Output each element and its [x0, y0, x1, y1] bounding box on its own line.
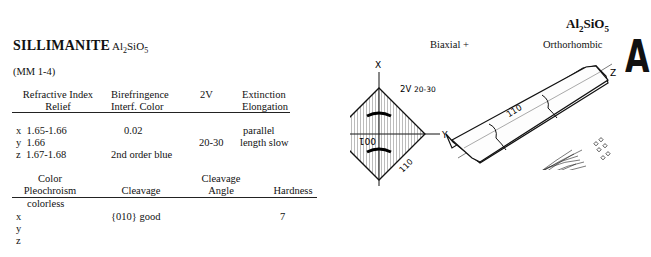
- ri-value: 1.66: [27, 137, 45, 148]
- mineral-formula: Al2SiO5: [112, 40, 148, 55]
- x-axis-label: X: [375, 60, 381, 70]
- crystal-prism-diagram: Z 110: [440, 50, 620, 170]
- header-line: Refractive Index: [13, 89, 103, 101]
- header-hardness: Hardness: [270, 185, 316, 197]
- mineral-reference: (MM 1-4): [13, 66, 55, 78]
- pleochroism-y: y: [16, 223, 21, 235]
- pleochroism-x: x: [16, 211, 21, 223]
- header-formula: Al2SiO5: [566, 16, 609, 34]
- ri-row-y: y 1.66: [16, 137, 45, 149]
- formula-element-sio: SiO: [127, 40, 144, 52]
- header-line: Cleavage: [116, 185, 166, 197]
- formula-element-sio: SiO: [584, 16, 605, 31]
- header-cleavage: Cleavage: [116, 185, 166, 197]
- color-value: colorless: [27, 198, 64, 210]
- birefringence-value: 0.02: [124, 125, 142, 137]
- ri-value: 1.67-1.68: [26, 149, 66, 160]
- ri-value: 1.65-1.66: [27, 125, 67, 136]
- ri-row-z: z 1.67-1.68: [16, 149, 66, 161]
- header-line: Birefringence: [111, 89, 175, 101]
- formula-element-al: Al: [566, 16, 579, 31]
- interference-color-value: 2nd order blue: [111, 149, 172, 161]
- header-birefringence: Birefringence Interf. Color: [111, 89, 175, 113]
- header-line: 2V: [200, 89, 220, 101]
- extinction-value: parallel: [243, 125, 274, 137]
- elongation-value: length slow: [240, 137, 289, 149]
- header-cleavage-angle: Cleavage Angle: [196, 173, 246, 197]
- header-line: Angle: [196, 185, 246, 197]
- header-line: Pleochroism: [20, 185, 80, 197]
- two-v-label: 2V: [400, 84, 411, 94]
- header-line: Extinction: [242, 89, 302, 101]
- header-line: Cleavage: [196, 173, 246, 185]
- fibrous-aggregate: [508, 150, 586, 170]
- header-2v: 2V: [200, 89, 220, 101]
- pleochroism-z: z: [16, 235, 21, 247]
- hardness-value: 7: [280, 211, 285, 223]
- formula-element-al: Al: [112, 40, 123, 52]
- optics-header-rule: [12, 112, 290, 113]
- two-v-value: 20-30: [199, 137, 224, 149]
- axis-label: z: [16, 149, 21, 160]
- ri-row-x: x 1.65-1.66: [16, 125, 67, 137]
- cleavage-value: {010} good: [111, 211, 160, 223]
- section-letter: A: [625, 35, 650, 79]
- header-extinction: Extinction Elongation: [242, 89, 302, 113]
- z-axis-label: Z: [610, 68, 616, 78]
- face-001-label: 001: [359, 136, 376, 146]
- face-110-label: 110: [398, 157, 415, 174]
- small-crystal-sections: [594, 138, 610, 160]
- axis-label: y: [16, 137, 21, 148]
- formula-subscript: 5: [604, 24, 609, 34]
- formula-subscript: 5: [144, 46, 148, 55]
- header-line: Color: [20, 173, 80, 185]
- axis-label: x: [16, 125, 21, 136]
- header-refractive-index: Refractive Index Relief: [13, 89, 103, 113]
- two-v-figure-value: 20-30: [414, 85, 436, 94]
- header-line: Hardness: [270, 185, 316, 197]
- header-color-pleochroism: Color Pleochroism: [20, 173, 80, 197]
- mineral-name: SILLIMANITE: [13, 38, 110, 54]
